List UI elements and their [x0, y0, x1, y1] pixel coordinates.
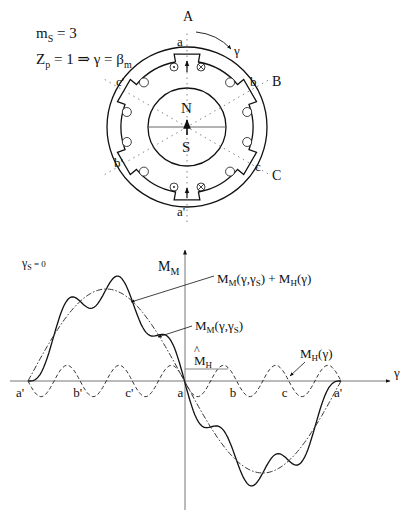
diagram-canvas: mS = 3 Zp = 1 ⇒ γ = βm N S A B C — [0, 0, 417, 517]
conductor-icon — [139, 78, 148, 87]
x-tick-label: b' — [73, 385, 82, 400]
rotation-arrow-icon — [196, 32, 231, 49]
coil-label-b-prime: b' — [114, 155, 123, 170]
axis-label-C: C — [272, 168, 281, 183]
coil-label-a: a — [177, 34, 183, 49]
coil-label-c-prime: c' — [116, 74, 124, 89]
condition-label: γS = 0 — [21, 256, 46, 272]
coil-label-a-prime: a' — [177, 204, 185, 219]
legend-label-sum: MM(γ,γS) + MH(γ) — [217, 271, 311, 288]
x-tick-label: c' — [125, 385, 133, 400]
conductor-icon — [122, 137, 131, 146]
torque-chart: γS = 0 MM γ a'b'c'abca' ^ MH MM(γ,γS) + … — [10, 250, 400, 510]
x-tick-label: a' — [16, 385, 24, 400]
legend-label-fundamental: MM(γ,γS) — [195, 318, 243, 335]
phase-count-label: mS = 3 — [36, 25, 77, 44]
conductor-icon — [226, 78, 235, 87]
coil-label-b: b — [250, 74, 257, 89]
rotation-angle-label: γ — [233, 43, 240, 58]
motor-cross-section: N S A B C a a' b b' c c' γ — [105, 9, 282, 222]
conductor-icon — [139, 167, 148, 176]
x-tick-label: a — [178, 385, 184, 400]
rotor-south-label: S — [182, 139, 190, 155]
conductor-icon — [226, 167, 235, 176]
pole-pair-label: Zp = 1 ⇒ γ = βm — [36, 51, 132, 70]
legend-pointer-harmonic — [290, 362, 305, 376]
coil-label-c: c — [255, 159, 261, 174]
x-axis-label: γ — [393, 365, 400, 380]
harmonic-amplitude-label: MH — [194, 353, 213, 370]
legend-pointer-fundamental — [158, 326, 192, 337]
conductor-icon — [243, 108, 252, 117]
axis-label-A: A — [183, 9, 194, 24]
legend-pointer-sum — [131, 276, 214, 302]
axis-label-B: B — [272, 74, 281, 89]
rotor-north-label: N — [181, 100, 192, 116]
x-tick-labels: a'b'c'abca' — [16, 385, 342, 400]
legend-label-harmonic: MH(γ) — [300, 346, 332, 363]
x-tick-label: c — [282, 385, 288, 400]
conductor-icon — [122, 108, 131, 117]
y-axis-label: MM — [158, 259, 179, 277]
x-tick-label: b — [230, 385, 237, 400]
conductor-icon — [243, 137, 252, 146]
